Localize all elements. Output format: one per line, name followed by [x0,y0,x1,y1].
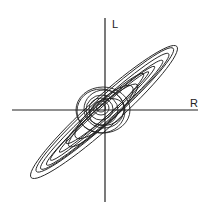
phase-scope-plot [0,0,209,214]
axis-label-l: L [112,18,118,30]
axis-label-r: R [190,97,198,109]
diagonal-loops [21,35,187,188]
lissajous-diagram: L R [0,0,209,214]
